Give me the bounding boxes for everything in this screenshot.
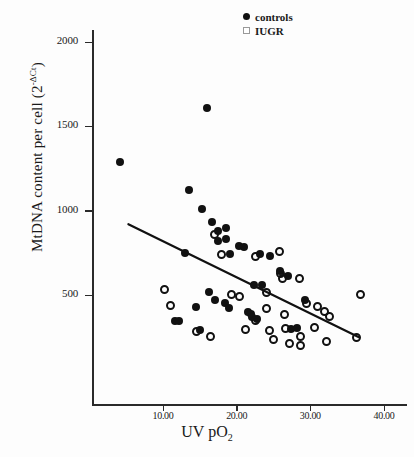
data-point-IUGR xyxy=(280,310,289,319)
y-tick-1000 xyxy=(85,210,93,212)
data-point-controls xyxy=(211,296,219,304)
data-point-IUGR xyxy=(192,327,201,336)
data-point-controls xyxy=(185,186,193,194)
y-tick-label-1500: 1500 xyxy=(34,118,78,130)
y-tick-1500 xyxy=(85,126,93,128)
data-point-controls xyxy=(116,158,124,166)
y-axis-line xyxy=(92,30,94,405)
data-point-IUGR xyxy=(322,337,331,346)
data-point-controls xyxy=(266,252,274,260)
data-point-IUGR xyxy=(302,299,311,308)
data-point-controls xyxy=(240,243,248,251)
data-point-IUGR xyxy=(265,326,274,335)
legend-entry-iugr: IUGR xyxy=(240,24,293,37)
data-point-controls xyxy=(225,304,233,312)
data-point-IUGR xyxy=(217,250,226,259)
x-tick-label-10: 10.00 xyxy=(139,410,187,421)
open-square-icon xyxy=(240,27,252,34)
data-point-IUGR xyxy=(352,333,361,342)
data-point-IUGR xyxy=(269,335,278,344)
data-point-controls xyxy=(192,303,200,311)
data-point-IUGR xyxy=(275,247,284,256)
data-point-IUGR xyxy=(356,290,365,299)
regression-line xyxy=(0,0,414,457)
x-axis-title-main: UV pO xyxy=(181,423,227,440)
x-axis-line xyxy=(92,404,407,406)
data-point-IUGR xyxy=(210,230,219,239)
data-point-controls xyxy=(208,218,216,226)
data-point-controls xyxy=(198,205,206,213)
data-point-IUGR xyxy=(251,252,260,261)
data-point-IUGR xyxy=(241,325,250,334)
data-point-IUGR xyxy=(206,332,215,341)
legend-label-iugr: IUGR xyxy=(255,25,284,37)
y-axis-title: MtDNA content per cell (2-ΔCt) xyxy=(28,32,46,282)
y-tick-label-2000: 2000 xyxy=(34,34,78,46)
legend-entry-controls: controls xyxy=(240,10,293,23)
data-point-IUGR xyxy=(281,324,290,333)
data-point-IUGR xyxy=(166,301,175,310)
y-axis-title-exponent: -ΔCt xyxy=(28,67,38,85)
data-point-IUGR xyxy=(285,339,294,348)
data-point-controls xyxy=(205,288,213,296)
y-axis-title-end: ) xyxy=(29,62,45,67)
data-point-controls xyxy=(203,104,211,112)
data-point-IUGR xyxy=(296,332,305,341)
data-point-controls xyxy=(222,224,230,232)
x-tick-label-40: 40.00 xyxy=(360,410,408,421)
y-tick-label-500: 500 xyxy=(34,287,78,299)
x-axis-title: UV pO2 xyxy=(0,423,414,443)
data-point-controls xyxy=(250,281,258,289)
data-point-controls xyxy=(293,324,301,332)
data-point-controls xyxy=(226,250,234,258)
x-axis-title-subscript: 2 xyxy=(228,432,233,443)
data-point-IUGR xyxy=(251,316,260,325)
data-point-IUGR xyxy=(296,341,305,350)
y-tick-label-1000: 1000 xyxy=(34,203,78,215)
data-point-IUGR xyxy=(160,285,169,294)
x-tick-label-20: 20.00 xyxy=(213,410,261,421)
data-point-controls xyxy=(175,317,183,325)
x-tick-label-30: 30.00 xyxy=(286,410,334,421)
y-tick-2000 xyxy=(85,42,93,44)
data-point-IUGR xyxy=(295,274,304,283)
filled-circle-icon xyxy=(240,13,252,20)
scatter-plot-figure: MtDNA content per cell (2-ΔCt) UV pO2 50… xyxy=(0,0,414,457)
data-point-IUGR xyxy=(278,274,287,283)
data-point-IUGR xyxy=(262,304,271,313)
legend-label-controls: controls xyxy=(255,11,293,23)
data-point-IUGR xyxy=(235,292,244,301)
y-axis-title-main: MtDNA content per cell (2 xyxy=(29,85,45,252)
data-point-IUGR xyxy=(310,323,319,332)
data-point-controls xyxy=(181,249,189,257)
data-point-IUGR xyxy=(325,312,334,321)
y-tick-500 xyxy=(85,295,93,297)
data-point-controls xyxy=(222,235,230,243)
chart-legend: controls IUGR xyxy=(240,10,293,38)
data-point-IUGR xyxy=(262,288,271,297)
